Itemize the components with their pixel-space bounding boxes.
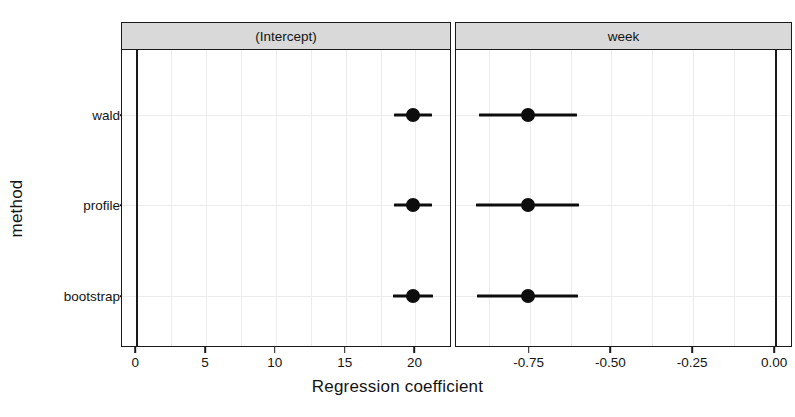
x-axis-tick-mark — [610, 347, 612, 353]
y-axis-title: method — [0, 0, 34, 417]
x-axis-tick-label: -0.75 — [513, 355, 544, 370]
data-point-bootstrap — [406, 289, 420, 303]
grid-line-vertical — [652, 50, 653, 346]
panel-strip-label: week — [455, 22, 792, 50]
grid-line-vertical — [276, 50, 277, 346]
x-axis-tick-mark — [344, 347, 346, 353]
grid-line-vertical — [611, 50, 612, 346]
grid-line-vertical — [489, 50, 490, 346]
panel-strip-label: (Intercept) — [121, 22, 451, 50]
grid-line-vertical — [693, 50, 694, 346]
data-point-wald — [521, 108, 535, 122]
data-point-bootstrap — [521, 289, 535, 303]
x-axis-tick-label: -0.50 — [595, 355, 626, 370]
x-axis-tick-label: 20 — [407, 355, 422, 370]
x-axis-tick-mark — [691, 347, 693, 353]
data-point-profile — [406, 198, 420, 212]
reference-line-zero — [775, 50, 777, 346]
grid-line-vertical — [381, 50, 382, 346]
x-axis-tick-label: 10 — [267, 355, 282, 370]
x-axis-tick-mark — [528, 347, 530, 353]
x-axis-tick-mark — [414, 347, 416, 353]
grid-line-vertical — [241, 50, 242, 346]
data-point-wald — [406, 108, 420, 122]
x-axis-tick-mark — [204, 347, 206, 353]
chart-figure: method waldprofilebootstrap (Intercept)w… — [0, 0, 795, 417]
grid-line-vertical — [346, 50, 347, 346]
panel-week: week — [455, 22, 792, 347]
x-axis-title: Regression coefficient — [0, 377, 795, 397]
panel-plot-area — [455, 50, 792, 347]
reference-line-zero — [136, 50, 138, 346]
grid-line-vertical — [571, 50, 572, 346]
y-axis-tick-label-bootstrap: bootstrap — [64, 289, 120, 304]
x-axis-tick-label: -0.25 — [677, 355, 708, 370]
y-axis-tick-label-wald: wald — [92, 108, 120, 123]
x-axis-tick-label: 0 — [131, 355, 139, 370]
x-axis-tick-label: 15 — [337, 355, 352, 370]
grid-line-vertical — [171, 50, 172, 346]
grid-line-vertical — [206, 50, 207, 346]
y-axis-tick-label-profile: profile — [83, 198, 120, 213]
x-axis-tick-label: 5 — [201, 355, 209, 370]
y-axis-tick-labels: waldprofilebootstrap — [36, 0, 120, 417]
x-axis-tick-mark — [274, 347, 276, 353]
grid-line-vertical — [311, 50, 312, 346]
x-axis-tick-mark — [134, 347, 136, 353]
data-point-profile — [521, 198, 535, 212]
x-axis-tick-label: 0.00 — [761, 355, 787, 370]
panel-plot-area — [121, 50, 451, 347]
grid-line-vertical — [734, 50, 735, 346]
x-axis-tick-mark — [773, 347, 775, 353]
panel-intercept: (Intercept) — [121, 22, 451, 347]
